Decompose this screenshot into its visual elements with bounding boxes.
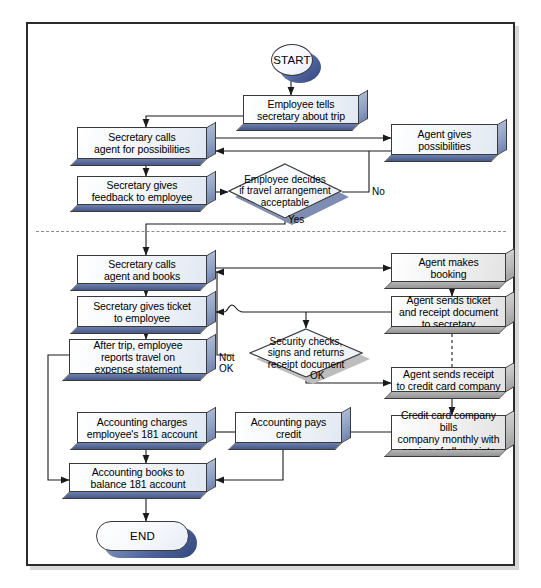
- node-agent-gives-possibilities: Agent gives possibilities: [391, 124, 507, 162]
- node-secretary-books: Secretary calls agent and books: [77, 255, 216, 291]
- edge-label-yes: Yes: [288, 214, 304, 225]
- node-face: Agent makes booking: [391, 253, 506, 282]
- edge-label-no: No: [372, 186, 385, 197]
- node-face: Accounting pays credit: [235, 412, 342, 443]
- node-face: Agent sends ticket and receipt document …: [391, 296, 506, 327]
- edge-employee-tells-to-secretary-calls: [146, 116, 243, 127]
- node-bottom-face: [384, 327, 506, 334]
- edge-jump-upper: [232, 305, 243, 312]
- node-agent-sends-receipt: Agent sends receipt to credit card compa…: [391, 367, 515, 399]
- node-employee-tells: Employee tells secretary about trip: [243, 95, 368, 131]
- node-bottom-face: [62, 374, 207, 381]
- node-side-face: [207, 291, 216, 327]
- node-bottom-face: [236, 124, 359, 131]
- start-face: START: [271, 44, 313, 76]
- edge-label-ok: OK: [310, 370, 324, 381]
- node-bottom-face: [62, 492, 207, 499]
- node-agent-makes-booking: Agent makes booking: [391, 253, 515, 289]
- node-face: Secretary calls agent and books: [77, 255, 207, 284]
- node-side-face: [506, 248, 515, 282]
- node-face: Agent sends receipt to credit card compa…: [391, 367, 506, 392]
- node-bottom-face: [70, 159, 207, 166]
- node-label: Accounting pays credit: [236, 416, 341, 440]
- edge-label-not-ok: Not OK: [219, 352, 235, 374]
- node-credit-card-bills: Credit card company bills company monthl…: [391, 415, 515, 457]
- node-label: After trip, employee reports travel on e…: [90, 339, 185, 375]
- node-bottom-face: [384, 450, 506, 457]
- edge-accounting-pays-to-books: [216, 450, 283, 480]
- phase-separator: [36, 231, 506, 232]
- node-face: Accounting books to balance 181 account: [69, 463, 207, 492]
- edge-security-not-ok: [216, 272, 232, 355]
- node-face: Secretary calls agent for possibilities: [77, 127, 207, 159]
- end-label: END: [130, 530, 155, 542]
- end-terminator: END: [96, 521, 189, 551]
- decision-label: Employee decides if travel arrangement a…: [239, 174, 331, 209]
- node-secretary-calls-possibilities: Secretary calls agent for possibilities: [77, 127, 216, 166]
- end-face: END: [96, 521, 189, 551]
- node-face: Secretary gives feedback to employee: [77, 176, 207, 205]
- node-accounting-books: Accounting books to balance 181 account: [69, 463, 216, 499]
- node-face: After trip, employee reports travel on e…: [69, 339, 207, 374]
- node-label: Accounting charges employee's 181 accoun…: [84, 416, 201, 440]
- node-label: Secretary gives feedback to employee: [89, 179, 196, 203]
- node-side-face: [207, 458, 216, 492]
- node-secretary-feedback: Secretary gives feedback to employee: [77, 176, 216, 212]
- node-face: Accounting charges employee's 181 accoun…: [77, 412, 207, 443]
- node-label: Secretary calls agent and books: [101, 258, 183, 282]
- flowchart-canvas: START Employee tells secretary about tri…: [0, 0, 541, 588]
- node-label: Accounting books to balance 181 account: [87, 466, 188, 490]
- node-side-face: [207, 334, 216, 374]
- node-face: Employee tells secretary about trip: [243, 95, 359, 124]
- start-terminator: START: [271, 44, 313, 76]
- node-accounting-charges: Accounting charges employee's 181 accoun…: [77, 412, 216, 450]
- node-bottom-face: [70, 327, 207, 334]
- node-side-face: [359, 90, 368, 124]
- node-after-trip: After trip, employee reports travel on e…: [69, 339, 216, 381]
- node-side-face: [207, 407, 216, 443]
- node-side-face: [207, 122, 216, 159]
- decision-label-wrap: Employee decides if travel arrangement a…: [228, 163, 342, 219]
- node-label: Agent sends ticket and receipt document …: [396, 294, 501, 330]
- node-side-face: [342, 407, 351, 443]
- node-side-face: [498, 119, 507, 155]
- node-side-face: [506, 362, 515, 392]
- node-agent-sends-ticket: Agent sends ticket and receipt document …: [391, 296, 515, 334]
- node-security-checks: Security checks, signs and returns recei…: [249, 328, 363, 378]
- edge-decision-no: [342, 151, 369, 192]
- node-bottom-face: [228, 443, 342, 450]
- decision-label-wrap: Security checks, signs and returns recei…: [249, 328, 363, 378]
- node-label: Agent makes booking: [415, 256, 481, 280]
- decision-label: Security checks, signs and returns recei…: [268, 336, 345, 371]
- start-label: START: [273, 54, 311, 66]
- node-bottom-face: [384, 282, 506, 289]
- node-label: Secretary gives ticket to employee: [90, 300, 194, 324]
- node-label: Secretary calls agent for possibilities: [91, 131, 193, 155]
- node-bottom-face: [384, 155, 498, 162]
- node-side-face: [207, 171, 216, 205]
- node-side-face: [207, 250, 216, 284]
- node-accounting-pays: Accounting pays credit: [235, 412, 351, 450]
- node-face: Agent gives possibilities: [391, 124, 498, 155]
- node-face: Credit card company bills company monthl…: [391, 415, 506, 450]
- node-secretary-gives-ticket: Secretary gives ticket to employee: [77, 296, 216, 334]
- node-side-face: [506, 291, 515, 327]
- edge-jump-lower: [224, 305, 232, 312]
- node-face: Secretary gives ticket to employee: [77, 296, 207, 327]
- node-label: Agent gives possibilities: [415, 128, 475, 152]
- node-label: Agent sends receipt to credit card compa…: [393, 368, 503, 392]
- node-bottom-face: [70, 443, 207, 450]
- node-bottom-face: [70, 205, 207, 212]
- node-side-face: [506, 410, 515, 450]
- node-employee-decides: Employee decides if travel arrangement a…: [228, 163, 342, 219]
- node-label: Employee tells secretary about trip: [254, 98, 348, 122]
- node-bottom-face: [70, 284, 207, 291]
- node-bottom-face: [384, 392, 506, 399]
